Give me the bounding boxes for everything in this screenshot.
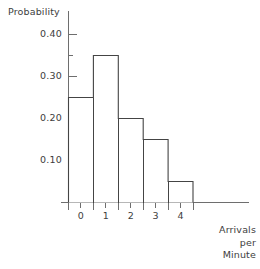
- y-tick-label: 0.30: [24, 71, 62, 81]
- x-tick-label: 3: [146, 210, 166, 221]
- x-axis-title-line-3: Minute: [136, 249, 256, 262]
- y-tick-label-wrap: 0.10: [22, 155, 62, 165]
- x-tick-label: 4: [171, 210, 191, 221]
- x-tick-label: 0: [71, 210, 91, 221]
- y-tick-label-wrap: 0.20: [22, 113, 62, 123]
- y-tick-label: 0.20: [24, 113, 62, 123]
- y-tick-label-wrap: 0.30: [22, 71, 62, 81]
- y-tick-label: 0.40: [24, 29, 62, 39]
- x-axis-title: Arrivals per Minute: [136, 224, 256, 262]
- x-axis-title-line-1: Arrivals: [136, 224, 256, 237]
- x-axis-title-line-2: per: [136, 237, 256, 250]
- x-tick-label: 1: [96, 210, 116, 221]
- y-tick-label: 0.10: [24, 155, 62, 165]
- x-tick-label: 2: [121, 210, 141, 221]
- histogram-outline: [69, 56, 194, 203]
- bar-series: [69, 56, 194, 203]
- probability-histogram-figure: Probability 0.100.200.300.40 01234 Arriv…: [0, 0, 260, 269]
- y-tick-label-wrap: 0.40: [22, 29, 62, 39]
